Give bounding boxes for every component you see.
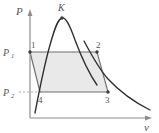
state-point-marker xyxy=(106,90,109,93)
critical-point-marker xyxy=(60,16,63,19)
pressure-label-p1-subscript: 1 xyxy=(11,52,14,59)
pv-diagram: P v P 1 P 2 K 1 2 3 4 xyxy=(0,0,159,133)
pv-diagram-canvas: P v P 1 P 2 K 1 2 3 4 xyxy=(0,0,159,133)
state-label-1: 1 xyxy=(31,40,36,50)
state-label-2: 2 xyxy=(96,40,101,50)
y-axis-label: P xyxy=(15,5,23,17)
cycle-region-fill xyxy=(30,52,108,92)
state-label-4: 4 xyxy=(38,95,43,105)
state-point-marker xyxy=(95,50,98,53)
pressure-label-p2: P xyxy=(2,87,9,98)
state-point-marker xyxy=(28,50,31,53)
critical-point-label: K xyxy=(57,2,66,13)
x-axis-arrowhead xyxy=(145,116,152,121)
pressure-label-p2-subscript: 2 xyxy=(11,92,15,99)
y-axis-arrowhead xyxy=(28,9,33,16)
pressure-label-p1: P xyxy=(2,47,9,58)
state-label-3: 3 xyxy=(105,95,110,105)
x-axis-label: v xyxy=(144,121,149,133)
